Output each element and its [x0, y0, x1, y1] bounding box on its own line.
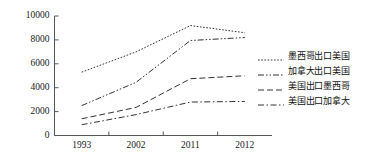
series-line [82, 101, 245, 124]
x-axis-ticks [109, 132, 218, 136]
x-tick-label: 2002 [111, 141, 161, 151]
x-tick-label: 1993 [57, 141, 107, 151]
y-tick-label: 8000 [0, 35, 50, 45]
line-chart-figure: 0200040006000800010000 1993200220112012 … [0, 0, 380, 166]
y-tick-label: 0 [0, 131, 50, 141]
legend-item[interactable]: 美国出口墨西哥 [258, 78, 378, 93]
series-line [82, 38, 245, 106]
legend-label: 美国出口加拿大 [288, 94, 350, 107]
series-line [82, 26, 245, 73]
series-line [82, 76, 245, 119]
legend-line-sample-icon [258, 51, 284, 61]
legend-line-sample-icon [258, 96, 284, 106]
legend-item[interactable]: 美国出口加拿大 [258, 93, 378, 108]
y-tick-label: 10000 [0, 11, 50, 21]
x-tick-label: 2012 [220, 141, 270, 151]
legend-label: 墨西哥出口美国 [288, 49, 350, 62]
y-tick-label: 2000 [0, 107, 50, 117]
y-tick-label: 4000 [0, 83, 50, 93]
legend-label: 加拿大出口美国 [288, 64, 350, 77]
legend-item[interactable]: 墨西哥出口美国 [258, 48, 378, 63]
legend-line-sample-icon [258, 66, 284, 76]
legend-label: 美国出口墨西哥 [288, 79, 350, 92]
y-axis-ticks [55, 16, 59, 136]
x-tick-label: 2011 [165, 141, 215, 151]
chart-legend: 墨西哥出口美国加拿大出口美国美国出口墨西哥美国出口加拿大 [258, 48, 378, 108]
legend-line-sample-icon [258, 81, 284, 91]
y-tick-label: 6000 [0, 59, 50, 69]
data-series-group [82, 26, 245, 125]
legend-item[interactable]: 加拿大出口美国 [258, 63, 378, 78]
